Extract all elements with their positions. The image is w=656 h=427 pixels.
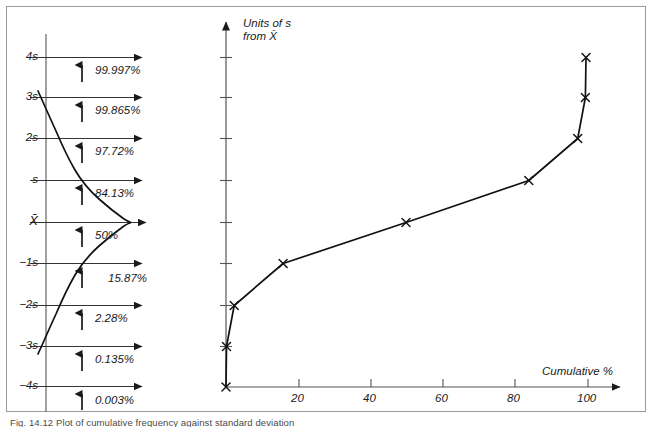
data-point-m1s: [279, 260, 287, 268]
percent-label-0135: 0.135%: [95, 353, 134, 366]
percent-label-99865: 99.865%: [95, 104, 140, 117]
y-axis-label-1s: s: [4, 173, 38, 186]
percent-label-50: 50%: [95, 229, 118, 242]
x-tick-label-100: 100: [577, 392, 596, 405]
percent-label-99997: 99.997%: [95, 64, 140, 77]
data-point-marker-group: [222, 54, 590, 392]
right-x-axis-title: Cumulative %: [542, 365, 613, 378]
x-tick-label-60: 60: [435, 392, 448, 405]
percent-label-0003: 0.003%: [95, 394, 134, 407]
right-y-axis-title-line1: Units of s: [243, 17, 291, 30]
figure-root: 4s 3s 2s s X̄ −1s −2s −3s −4s 99.997% 99…: [0, 0, 656, 427]
right-panel-axes: [226, 22, 620, 387]
y-axis-label-mean: X̄: [4, 214, 38, 229]
x-tick-label-80: 80: [507, 392, 520, 405]
data-point-mean: [402, 219, 410, 227]
y-axis-label-4s: 4s: [4, 50, 38, 63]
y-axis-label-minus-2s: −2s: [0, 298, 38, 311]
y-axis-label-2s: 2s: [4, 131, 38, 144]
percent-label-1587: 15.87%: [108, 272, 147, 285]
figure-caption: Fig. 14.12 Plot of cumulative frequency …: [10, 417, 294, 427]
right-x-tick-group: [299, 379, 588, 387]
percent-label-9772: 97.72%: [95, 145, 134, 158]
y-axis-label-minus-4s: −4s: [0, 379, 38, 392]
y-axis-label-3s: 3s: [4, 90, 38, 103]
y-axis-label-minus-3s: −3s: [0, 339, 38, 352]
right-y-axis-title-line2: from X̄: [243, 30, 277, 43]
x-tick-label-20: 20: [291, 392, 304, 405]
y-axis-label-minus-1s: −1s: [0, 256, 38, 269]
data-point-1s: [525, 177, 533, 185]
percent-label-228: 2.28%: [95, 312, 128, 325]
x-tick-label-40: 40: [363, 392, 376, 405]
percent-label-8413: 84.13%: [95, 187, 134, 200]
